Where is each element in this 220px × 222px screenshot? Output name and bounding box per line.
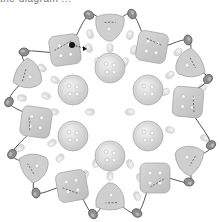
seed-bead <box>85 109 94 115</box>
seed-bead <box>49 75 60 85</box>
seed-bead <box>46 138 57 148</box>
wire-bead <box>126 8 138 21</box>
square-button <box>135 30 170 65</box>
seed-bead <box>164 70 175 80</box>
shield-button <box>96 14 125 41</box>
square-button <box>55 169 90 204</box>
bead-wreath-diagram <box>0 0 220 222</box>
seed-bead <box>165 126 176 135</box>
shield-button <box>96 183 125 210</box>
wire-bead <box>19 48 29 56</box>
seed-bead <box>17 94 27 102</box>
inner-round-buttons <box>58 53 163 171</box>
wire-bead <box>184 177 195 186</box>
wire-bead <box>83 9 95 21</box>
square-button <box>140 163 170 193</box>
seed-bead <box>86 29 94 40</box>
seed-bead <box>125 159 134 170</box>
seed-bead <box>85 43 94 54</box>
round-button <box>58 75 88 105</box>
square-button <box>19 105 53 139</box>
seed-bead <box>125 109 134 115</box>
square-button <box>48 33 82 67</box>
round-button <box>133 75 163 105</box>
shield-button <box>169 139 207 177</box>
round-button <box>133 121 163 151</box>
seed-bead <box>107 171 113 180</box>
seed-bead <box>41 92 51 100</box>
seed-bead <box>54 153 65 164</box>
seed-bead <box>126 30 135 41</box>
wire-bead <box>183 35 192 46</box>
seed-bead <box>133 191 142 202</box>
seed-bead <box>107 43 113 52</box>
round-button <box>95 141 125 171</box>
round-button <box>95 53 125 83</box>
shield-button <box>16 147 54 185</box>
round-button <box>58 121 88 151</box>
square-button <box>172 86 205 119</box>
wire-bead <box>131 207 144 219</box>
wire-bead <box>202 73 215 86</box>
wire-bead <box>31 188 40 199</box>
